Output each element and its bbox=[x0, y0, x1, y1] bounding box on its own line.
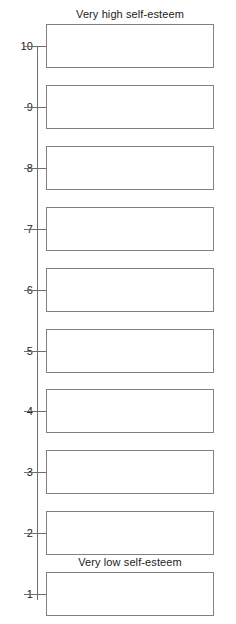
response-box-10[interactable] bbox=[46, 24, 214, 68]
tick-mark-6 bbox=[24, 290, 48, 291]
response-box-2[interactable] bbox=[46, 511, 214, 555]
response-box-9[interactable] bbox=[46, 85, 214, 129]
tick-mark-1 bbox=[24, 594, 48, 595]
response-box-7[interactable] bbox=[46, 207, 214, 251]
anchor-label-high: Very high self-esteem bbox=[46, 7, 214, 21]
response-box-3[interactable] bbox=[46, 450, 214, 494]
self-esteem-rating-scale: Very high self-esteem 10 9 8 7 6 5 4 3 2… bbox=[0, 0, 236, 624]
tick-mark-10 bbox=[24, 46, 48, 47]
scale-axis-line bbox=[37, 46, 38, 600]
tick-mark-3 bbox=[24, 472, 48, 473]
tick-mark-2 bbox=[24, 533, 48, 534]
response-box-5[interactable] bbox=[46, 329, 214, 373]
response-box-4[interactable] bbox=[46, 389, 214, 433]
response-box-1[interactable] bbox=[46, 572, 214, 616]
response-box-6[interactable] bbox=[46, 268, 214, 312]
tick-mark-9 bbox=[24, 107, 48, 108]
tick-mark-8 bbox=[24, 168, 48, 169]
tick-mark-4 bbox=[24, 411, 48, 412]
tick-mark-5 bbox=[24, 351, 48, 352]
anchor-label-low: Very low self-esteem bbox=[46, 555, 214, 569]
tick-mark-7 bbox=[24, 229, 48, 230]
response-box-8[interactable] bbox=[46, 146, 214, 190]
